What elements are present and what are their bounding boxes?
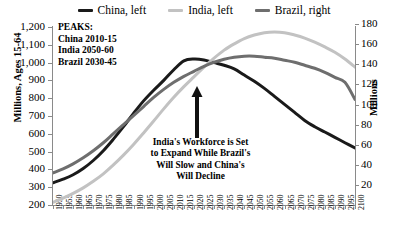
y-tick-right (355, 24, 359, 25)
y-axis-right-line (355, 26, 356, 206)
x-tick (325, 206, 326, 209)
x-tick (204, 206, 205, 209)
peaks-note-line-1: China 2010-15 (58, 34, 117, 46)
y-tick-left (48, 98, 52, 99)
y-tick-label-left: 700 (29, 110, 46, 121)
legend-label-china: China, left (98, 4, 147, 16)
y-tick-left (48, 63, 52, 64)
workforce-note-line-3: Will Decline (108, 171, 293, 182)
peaks-note-line-2: India 2050-60 (58, 45, 117, 57)
y-tick-label-right: 180 (361, 18, 378, 29)
y-tick-left (48, 152, 52, 153)
legend-swatch-india (168, 9, 183, 12)
up-arrow-icon (188, 86, 206, 138)
y-tick-label-left: 500 (29, 146, 46, 157)
x-tick (63, 206, 64, 209)
y-tick-label-right: 80 (361, 119, 372, 130)
workforce-note-line-0: India's Workforce is Set (108, 137, 293, 148)
x-tick (144, 206, 145, 209)
y-tick-right (355, 105, 359, 106)
y-tick-label-left: 200 (29, 199, 46, 210)
x-tick (295, 206, 296, 209)
legend-swatch-china (78, 9, 93, 12)
x-tick (164, 206, 165, 209)
x-tick (194, 206, 195, 209)
y-tick-right (355, 44, 359, 45)
x-tick (335, 206, 336, 209)
x-tick (315, 206, 316, 209)
y-tick-right (355, 145, 359, 146)
x-tick (305, 206, 306, 209)
y-tick-label-left: 1,100 (20, 39, 45, 50)
y-tick-label-left: 1,000 (20, 57, 45, 68)
y-tick-label-left: 900 (29, 74, 46, 85)
x-tick (184, 206, 185, 209)
x-tick (214, 206, 215, 209)
y-tick-left (48, 134, 52, 135)
legend-label-brazil: Brazil, right (275, 4, 331, 16)
workforce-note: India's Workforce is Set to Expand While… (108, 137, 293, 182)
x-tick (53, 206, 54, 209)
y-tick-label-right: 20 (361, 179, 372, 190)
legend-label-india: India, left (188, 4, 233, 16)
x-tick (154, 206, 155, 209)
y-tick-right (355, 185, 359, 186)
y-tick-left (48, 27, 52, 28)
y-tick-left (48, 169, 52, 170)
y-tick-right (355, 165, 359, 166)
workforce-note-line-2: Will Slow and China's (108, 160, 293, 171)
legend-swatch-brazil (255, 9, 270, 12)
legend-item-india[interactable]: India, left (168, 4, 233, 16)
y-tick-label-left: 1,200 (20, 21, 45, 32)
y-tick-label-right: 40 (361, 159, 372, 170)
y-tick-label-right: 60 (361, 139, 372, 150)
y-tick-left (48, 80, 52, 81)
y-tick-label-left: 600 (29, 128, 46, 139)
legend-item-china[interactable]: China, left (78, 4, 147, 16)
peaks-note-line-3: Brazil 2030-45 (58, 57, 117, 69)
y-tick-left (48, 45, 52, 46)
y-tick-right (355, 64, 359, 65)
y-tick-label-right: 120 (361, 78, 378, 89)
chart-root: China, left India, left Brazil, right Mi… (0, 0, 406, 240)
y-tick-left (48, 205, 52, 206)
peaks-note: PEAKS: China 2010-15 India 2050-60 Brazi… (58, 22, 117, 68)
y-tick-label-left: 300 (29, 181, 46, 192)
chart-legend: China, left India, left Brazil, right (53, 2, 355, 18)
y-tick-label-left: 800 (29, 92, 46, 103)
x-tick (345, 206, 346, 209)
y-tick-right (355, 125, 359, 126)
y-tick-right (355, 84, 359, 85)
y-tick-label-right: 100 (361, 99, 378, 110)
x-tick (134, 206, 135, 209)
x-tick (174, 206, 175, 209)
x-tick (285, 206, 286, 209)
y-tick-label-right: 140 (361, 58, 378, 69)
x-tick (224, 206, 225, 209)
x-tick-label: 2100 (358, 195, 366, 210)
x-tick (73, 206, 74, 209)
peaks-note-line-0: PEAKS: (58, 22, 117, 34)
y-tick-label-right: 160 (361, 38, 378, 49)
y-tick-left (48, 116, 52, 117)
workforce-note-line-1: to Expand While Brazil's (108, 148, 293, 159)
legend-item-brazil[interactable]: Brazil, right (255, 4, 331, 16)
x-tick (355, 206, 356, 209)
y-tick-label-left: 400 (29, 163, 46, 174)
y-tick-left (48, 187, 52, 188)
